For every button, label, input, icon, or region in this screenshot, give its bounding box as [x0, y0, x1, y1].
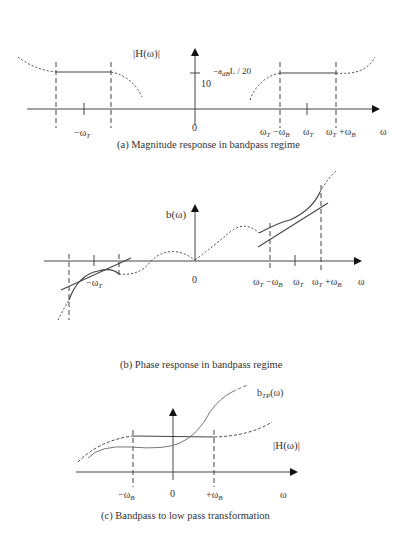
panel-a-upper-edge-label: ωT +ωB [326, 127, 356, 139]
panel-a-center-label: ωT [303, 127, 314, 139]
panel-b-axis-label: ω [358, 277, 365, 287]
panel-c-magnitude-curve [78, 422, 272, 462]
panel-a-level-base: 10 [201, 79, 211, 89]
panel-c-mag-label: |H(ω)| [273, 440, 300, 451]
panel-c-zero-label: 0 [170, 489, 175, 499]
panel-b-tangent-right [258, 203, 328, 247]
panel-a-y-label: |H(ω)| [133, 48, 160, 59]
panel-b-lower-edge-label: ωT −ωB [253, 277, 283, 289]
panel-c-neg-edge-label: −ωB [118, 490, 135, 502]
panel-b-upper-edge-label: ωT +ωB [312, 277, 342, 289]
panel-c-caption: (c) Bandpass to low pass transformation [101, 511, 270, 522]
panel-c-lowpass [76, 385, 296, 487]
panel-b-caption: (b) Phase response in bandpass regime [120, 360, 282, 371]
panel-b-zero-label: 0 [192, 275, 197, 285]
panel-b-phase-curve [58, 170, 337, 320]
panel-a-level-exponent: −adBL / 20 [213, 67, 251, 78]
panel-a-neg-center-label: −ωT [74, 128, 90, 140]
panel-a-lower-edge-label: ωT −ωB [260, 127, 290, 139]
panel-b-center-label: ωT [293, 277, 304, 289]
panel-b-neg-center-label: −ωT [86, 278, 102, 290]
panel-b-phase [44, 170, 360, 320]
panel-a-response-curve [18, 57, 375, 100]
panel-a-axis-label: ω [380, 127, 387, 137]
panel-a-caption: (a) Magnitude response in bandpass regim… [117, 140, 300, 151]
panel-c-phase-label: bTP(ω) [257, 388, 283, 400]
panel-c-phase-curve [88, 392, 232, 458]
panel-a-magnitude [18, 50, 378, 128]
panel-b-y-label: b(ω) [166, 209, 186, 220]
panel-c-passband [133, 436, 214, 437]
panel-c-pos-edge-label: +ωB [206, 490, 223, 502]
panel-a-zero-label: 0 [192, 123, 197, 133]
panel-c-axis-label: ω [280, 490, 287, 500]
